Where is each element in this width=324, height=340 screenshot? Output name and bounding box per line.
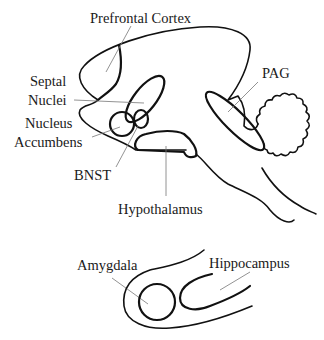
label-nucleus-2: Accumbens (14, 134, 83, 150)
brainstem-right (262, 168, 316, 214)
label-septal-2: Nuclei (28, 92, 67, 108)
label-amygdala: Amygdala (77, 257, 138, 273)
septal-nuclei-region (119, 70, 171, 128)
pag-region (200, 86, 271, 157)
septal-leader (74, 100, 144, 103)
label-hippocampus: Hippocampus (209, 255, 290, 271)
label-hypothalamus: Hypothalamus (118, 201, 203, 217)
label-prefrontal-cortex: Prefrontal Cortex (90, 10, 192, 26)
hippocampus-leader (220, 272, 250, 290)
label-nucleus-1: Nucleus (25, 115, 73, 131)
brain-diagram: Prefrontal Cortex Septal Nuclei Nucleus … (0, 0, 324, 340)
brainstem-left (196, 154, 294, 222)
brain-outline (80, 27, 258, 130)
nucleus-accumbens-region (110, 112, 134, 136)
label-pag: PAG (262, 65, 290, 81)
hippocampus-region (180, 274, 250, 309)
label-bnst: BNST (74, 167, 111, 183)
ventral-forebrain (79, 100, 186, 150)
diagram-svg: Prefrontal Cortex Septal Nuclei Nucleus … (0, 0, 324, 340)
label-septal-1: Septal (30, 73, 66, 89)
labels: Prefrontal Cortex Septal Nuclei Nucleus … (14, 10, 290, 273)
amygdala-region (139, 284, 175, 320)
